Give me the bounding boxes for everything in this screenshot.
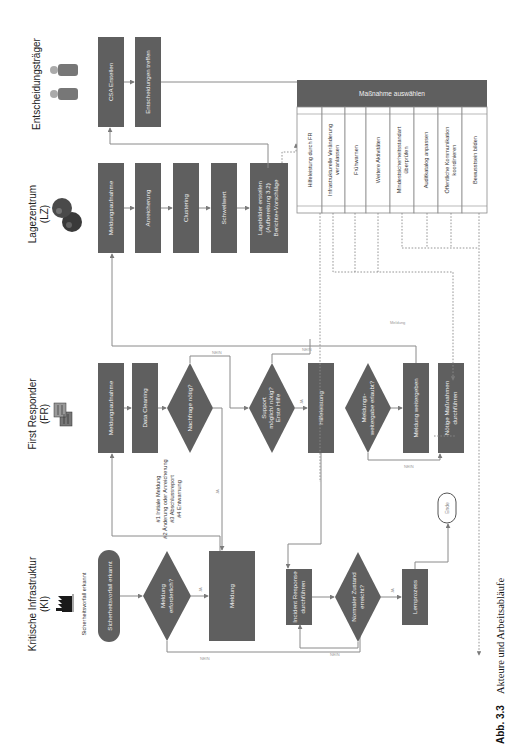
edge-label-nein-3: NEIN [212, 350, 222, 355]
start-node-label: Sicherheitsvorfall erkannt [106, 561, 113, 631]
lane-title-et: Entscheidungsträger [31, 37, 42, 129]
decision-weitergabe-label-1: Meldungs- [360, 394, 367, 423]
end-node-label: Ende [444, 502, 450, 514]
lane-subtitle-ki: (KI) [39, 596, 50, 612]
lagebilder-label-2: (Aufbereitung 3.2) [264, 183, 271, 233]
massnahme-header-text: Maßnahme auswählen [359, 90, 425, 97]
figure-caption: Abb. 3.3 Akteure und Arbeitsabläufe [495, 578, 506, 744]
csa-label: CSA Erstellen [107, 62, 114, 101]
edge-weitergabe-nein [368, 453, 440, 460]
decision-support-label-2: möglich/ nötig? [267, 387, 274, 429]
report-type-1: #1 Initiale Meldung [155, 476, 161, 523]
massnahme-option-label: Hilfeleistung durch FR [307, 132, 313, 187]
decision-weitergabe-label-2: weitergabe erlaubt? [368, 380, 375, 436]
lane-ki-header: Kritische Infrastruktur (KI) Sicherheits… [27, 556, 87, 651]
massnahme-option-label: Auditkatalog anpassen [423, 132, 429, 189]
buildings-icon [54, 403, 72, 426]
lane-subtitle-fr: (FR) [39, 404, 50, 424]
ki-meldung-label: Meldung [228, 584, 235, 608]
noetige-massnahmen-label-1: Nötige Maßnahmen [443, 380, 450, 435]
lernprozess-label: Lernprozess [411, 580, 418, 614]
schwellwert-label: Schwellwert [220, 191, 227, 224]
anreicherung-label: Anreicherung [144, 189, 151, 226]
massnahme-option-label: Öffentliche Kommunikation [444, 127, 450, 194]
edge-label-ja-4: JA [299, 399, 304, 404]
massnahme-option-label: koordinieren [451, 145, 457, 176]
clustering-label: Clustering [182, 194, 189, 222]
decision-support-label-1: Support [260, 397, 267, 419]
edge-nachfrage-ja [213, 408, 222, 550]
massnahme-option-label: Frühwarnen [353, 145, 359, 175]
lane-subtitle-lz: (LZ) [39, 205, 50, 223]
edge-label-nein-4: NEIN [302, 347, 312, 352]
decision-nachfrage-label: Nachfrage nötig? [186, 384, 193, 432]
fr-meldungsaufnahme-label: Meldungsaufnahme [107, 380, 114, 435]
edge-label-ja-1: JA [198, 587, 203, 592]
lz-meldungsaufnahme-label: Meldungsaufnahme [107, 180, 114, 235]
edge-lagebilder-massnahme [282, 144, 296, 163]
massnahme-option-label: Weitere Aktivitäten [375, 137, 381, 183]
hilfeleistung-label: Hilfeleistung [317, 391, 324, 425]
lane-lz-header: Lagezentrum (LZ) [27, 185, 82, 243]
data-cleaning-label: Data Cleaning [141, 388, 148, 428]
caption-label: Abb. 3.3 [495, 705, 506, 744]
massnahme-option-label: veranlassen [334, 145, 340, 175]
report-type-2: #2 Änderung oder Anreicherung [162, 459, 168, 538]
lane-et-header: Entscheidungsträger [31, 37, 78, 129]
people-icon [50, 64, 78, 100]
lagebilder-label-3: Berichte+Vorschläge [272, 179, 279, 236]
edge-hilfe-incident [288, 453, 321, 568]
report-type-4: #4 Entwarnung [176, 480, 182, 518]
edge-weitergeben-lz [112, 254, 416, 363]
incident-response-label-2: durchführen [299, 580, 306, 614]
globe-icon [52, 198, 82, 232]
decision-normal-label-1: Normaler Zustand [350, 572, 357, 622]
massnahme-table-screen: Maßnahme auswählen Hilfeleistung durch F… [297, 80, 487, 213]
massnahme-option-label: Infrastrukturelle Veränderung [327, 124, 333, 196]
edge-label-nein-1: NEIN [200, 656, 210, 661]
massnahme-option-label: Mindestsicherheitsstandart [396, 126, 402, 193]
massnahme-option-label: Bewusstsein bilden [472, 136, 478, 184]
factory-icon [56, 594, 74, 612]
connector-group-a [333, 213, 453, 380]
edge-label-nein-5: NEIN [404, 464, 414, 469]
workflow-figure: Kritische Infrastruktur (KI) Sicherheits… [0, 0, 514, 744]
lane-title-fr: First Responder [27, 378, 38, 450]
edge-label-ja-3: JA [215, 489, 220, 494]
caption-text: Akteure und Arbeitsabläufe [495, 578, 506, 694]
decision-meldung-label-2: erforderlich? [167, 578, 174, 613]
noetige-massnahmen-label-2: durchführen [451, 391, 458, 425]
decision-meldung-label-1: Meldung [159, 584, 166, 608]
edge-normal-nein [300, 625, 358, 648]
massnahme-option-label: überprüfen [403, 146, 409, 173]
massnahme-columns: Hilfeleistung durch FRInfrastrukturelle … [297, 107, 487, 213]
report-type-3: #3 Abschlussreport [169, 475, 175, 523]
edge-lern-ende [415, 524, 448, 569]
edge-label-nein-2: NEIN [330, 652, 340, 657]
incident-response-label-1: Incident Response [291, 571, 298, 623]
lagebilder-label-1: Lagebilder erstellen [256, 180, 263, 235]
lane-title-ki: Kritische Infrastruktur [27, 556, 38, 651]
decision-support-label-3: Erste Hilfe [274, 393, 281, 422]
decision-normal-label-2: erreicht? [358, 584, 365, 609]
edge-label-ja-2: JA [390, 588, 395, 593]
entscheidungen-label: Entscheidungen treffen [144, 50, 151, 114]
lane-title-lz: Lagezentrum [27, 185, 38, 243]
report-types-note: #1 Initiale Meldung #2 Änderung oder Anr… [155, 459, 182, 538]
edge-lagebilder-csa [110, 128, 268, 168]
start-label: Sicherheitsvorfall erkannt [81, 572, 87, 635]
lane-fr-header: First Responder (FR) [27, 378, 72, 450]
meldung-weitergeben-label: Meldung weitergeben [412, 378, 419, 438]
edge-label-meldung: Meldung [390, 320, 405, 325]
